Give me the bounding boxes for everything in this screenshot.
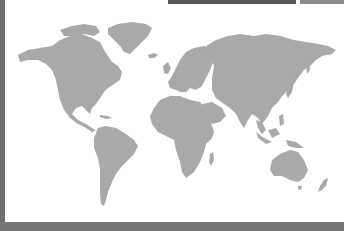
europe xyxy=(168,46,214,92)
british-isles xyxy=(163,62,171,74)
iceland xyxy=(148,53,158,58)
greenland xyxy=(108,22,152,54)
australia xyxy=(270,150,308,182)
southeast-asia xyxy=(256,120,266,134)
tasmania xyxy=(298,186,302,190)
arctic-islands xyxy=(60,24,100,36)
asia xyxy=(206,34,336,128)
philippines xyxy=(279,114,284,126)
new-zealand xyxy=(318,178,328,192)
madagascar xyxy=(209,152,214,166)
frame-bottom-band xyxy=(0,222,344,231)
world-map xyxy=(5,4,344,222)
south-america xyxy=(94,126,138,206)
caribbean xyxy=(100,115,112,119)
